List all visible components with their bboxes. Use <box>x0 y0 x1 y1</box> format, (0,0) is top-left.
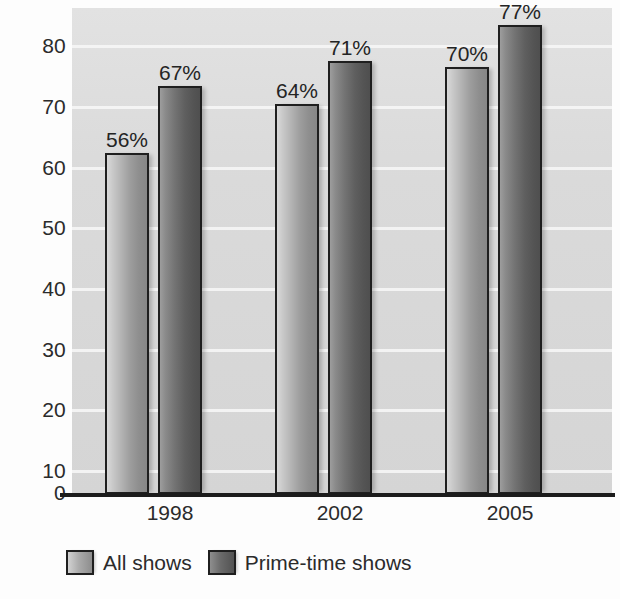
bar-2002-all-shows: 64% <box>275 104 319 494</box>
chart-legend: All shows Prime-time shows <box>66 550 412 575</box>
bar-1998-all-shows: 56% <box>105 153 149 494</box>
bar-value-2005-all-shows: 70% <box>446 43 488 65</box>
y-tick-label-80: 80 <box>4 35 66 56</box>
bar-2005-all-shows: 70% <box>445 67 489 494</box>
bar-value-2002-all-shows: 64% <box>276 80 318 102</box>
legend-label-all-shows: All shows <box>103 551 192 575</box>
x-axis-label-2005: 2005 <box>465 501 555 525</box>
y-axis: 80 70 60 50 40 30 20 10 0 <box>0 0 66 520</box>
legend-swatch-all-shows-icon <box>66 550 94 575</box>
bar-value-1998-prime-time-shows: 67% <box>159 62 201 84</box>
y-tick-label-20: 20 <box>4 399 66 420</box>
y-tick-label-0: 0 <box>4 482 66 503</box>
y-tick-label-70: 70 <box>4 96 66 117</box>
bar-2002-prime-time-shows: 71% <box>328 61 372 494</box>
bar-value-1998-all-shows: 56% <box>106 129 148 151</box>
x-axis-line <box>60 493 615 497</box>
x-axis-label-2002: 2002 <box>295 501 385 525</box>
y-tick-label-10: 10 <box>4 460 66 481</box>
bar-value-2005-prime-time-shows: 77% <box>499 1 541 23</box>
y-tick-label-50: 50 <box>4 217 66 238</box>
bar-2005-prime-time-shows: 77% <box>498 25 542 494</box>
bar-chart-figure: 56% 67% 64% 71% 70% 77% 80 70 60 50 40 3… <box>0 0 620 599</box>
legend-swatch-prime-time-shows-icon <box>208 550 236 575</box>
plot-area: 56% 67% 64% 71% 70% 77% <box>72 8 612 494</box>
legend-label-prime-time-shows: Prime-time shows <box>245 551 412 575</box>
bar-value-2002-prime-time-shows: 71% <box>329 37 371 59</box>
bar-1998-prime-time-shows: 67% <box>158 86 202 494</box>
legend-entry-prime-time-shows: Prime-time shows <box>208 550 412 575</box>
x-axis-label-1998: 1998 <box>125 501 215 525</box>
y-tick-label-30: 30 <box>4 339 66 360</box>
legend-entry-all-shows: All shows <box>66 550 192 575</box>
y-tick-label-40: 40 <box>4 278 66 299</box>
y-tick-label-60: 60 <box>4 157 66 178</box>
